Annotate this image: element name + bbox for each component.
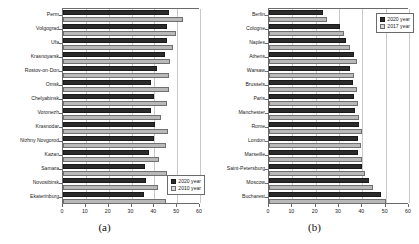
y-tick-mark (59, 99, 62, 100)
bar-previous-year (269, 115, 359, 120)
bar-group (269, 107, 408, 121)
category-label: Rome (251, 124, 265, 129)
x-tick-label: 30 (121, 209, 141, 214)
legend-label: 2020 year (387, 17, 410, 22)
bar-current-year (63, 108, 151, 113)
bar-previous-year (269, 31, 344, 36)
category-label: Voronezh (37, 110, 59, 115)
bar-group (269, 79, 408, 93)
y-tick-mark (59, 71, 62, 72)
x-tick-mark (385, 204, 386, 207)
bar-current-year (63, 66, 157, 71)
bar-current-year (269, 52, 354, 57)
y-tick-mark (265, 15, 268, 16)
bar-previous-year (63, 115, 161, 120)
bar-current-year (269, 66, 350, 71)
category-label: Manchester (238, 110, 265, 115)
bar-group (269, 65, 408, 79)
legend: 2020 year2017 year (376, 13, 414, 33)
bar-current-year (269, 94, 354, 99)
category-label: Krasnodar (35, 124, 59, 129)
x-tick-mark (291, 204, 292, 207)
x-tick-mark (268, 204, 269, 207)
category-label: Chelyabinsk (31, 96, 59, 101)
bar-previous-year (269, 129, 362, 134)
x-tick-mark (338, 204, 339, 207)
bar-current-year (269, 24, 340, 29)
bar-group (269, 93, 408, 107)
x-tick-mark (85, 204, 86, 207)
bar-previous-year (63, 185, 158, 190)
y-tick-mark (59, 43, 62, 44)
category-label: Ufa (51, 40, 59, 45)
legend-label: 2020 year (178, 179, 201, 184)
category-label: Kazan (45, 152, 59, 157)
bar-previous-year (63, 129, 168, 134)
bar-previous-year (269, 157, 362, 162)
bar-current-year (63, 150, 149, 155)
bar-group (269, 121, 408, 135)
bar-current-year (269, 122, 359, 127)
category-label: Bucharest (242, 194, 265, 199)
bar-group (269, 135, 408, 149)
bar-current-year (269, 38, 346, 43)
bar-previous-year (269, 59, 357, 64)
y-tick-mark (59, 15, 62, 16)
x-tick-label: 20 (305, 209, 325, 214)
y-tick-mark (265, 197, 268, 198)
y-tick-mark (265, 113, 268, 114)
y-tick-mark (265, 99, 268, 100)
bar-previous-year (269, 101, 358, 106)
category-label: Novosibirsk (33, 180, 59, 185)
bar-current-year (269, 10, 323, 15)
bar-previous-year (63, 73, 169, 78)
y-tick-mark (265, 141, 268, 142)
bar-current-year (63, 80, 151, 85)
y-tick-mark (59, 113, 62, 114)
x-tick-mark (315, 204, 316, 207)
y-tick-mark (265, 43, 268, 44)
bar-current-year (269, 178, 369, 183)
bar-group (63, 9, 199, 23)
category-label: Paris (253, 96, 265, 101)
bar-current-year (269, 80, 353, 85)
plot-inner (269, 9, 408, 203)
bar-current-year (269, 108, 355, 113)
y-tick-mark (59, 85, 62, 86)
bar-current-year (63, 24, 167, 29)
legend-item: 2010 year (171, 185, 201, 192)
x-tick-mark (131, 204, 132, 207)
bar-group (63, 23, 199, 37)
y-tick-mark (265, 71, 268, 72)
bar-previous-year (63, 171, 167, 176)
x-tick-mark (199, 204, 200, 207)
bar-previous-year (269, 45, 350, 50)
bar-group (269, 51, 408, 65)
bar-group (269, 177, 408, 191)
bar-previous-year (63, 31, 176, 36)
category-label: Saint-Petersburg (227, 166, 265, 171)
bar-group (63, 93, 199, 107)
y-tick-mark (265, 85, 268, 86)
legend-item: 2017 year (380, 23, 410, 30)
bar-current-year (63, 192, 144, 197)
bar-previous-year (269, 87, 357, 92)
bar-current-year (63, 178, 146, 183)
category-label: Nizhny Novgorod (20, 138, 59, 143)
legend-swatch-icon (171, 179, 176, 184)
plot-inner (63, 9, 199, 203)
bar-current-year (269, 136, 358, 141)
y-tick-mark (265, 127, 268, 128)
plot-area-b: 0102030405060BerlinCologneNaplesAthensWa… (210, 0, 419, 244)
legend-item: 2020 year (380, 16, 410, 23)
category-label: Perm (47, 12, 59, 17)
bar-previous-year (63, 101, 167, 106)
category-label: Athens (249, 54, 265, 59)
x-tick-mark (108, 204, 109, 207)
bar-previous-year (269, 143, 361, 148)
bar-group (63, 135, 199, 149)
category-label: Omsk (46, 82, 59, 87)
bar-previous-year (63, 199, 166, 204)
x-tick-label: 20 (98, 209, 118, 214)
y-tick-mark (59, 183, 62, 184)
